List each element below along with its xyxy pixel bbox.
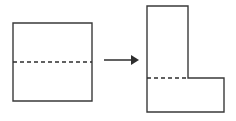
arrow-head-icon (131, 55, 139, 65)
arrow-group (104, 55, 139, 65)
square-fill (13, 23, 92, 101)
left-figure-group (13, 23, 92, 101)
l-shape-fill (147, 6, 224, 112)
right-figure-group (147, 6, 224, 112)
shape-transformation-diagram: Square transformed into L-shape Square A… (0, 0, 236, 121)
diagram-canvas (0, 0, 236, 121)
